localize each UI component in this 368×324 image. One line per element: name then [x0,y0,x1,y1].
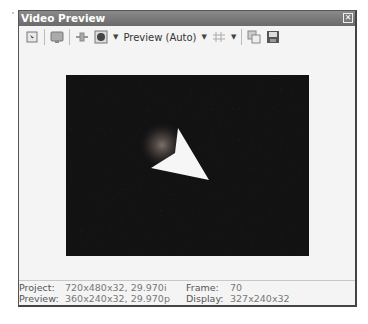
external-monitor-icon[interactable] [50,30,64,44]
preview-label: Preview: [19,293,65,304]
title-bar[interactable]: Video Preview ✕ [19,11,355,26]
preview-value: 360x240x32, 29.970p [65,293,170,304]
display-label: Display: [186,293,230,304]
save-snapshot-icon[interactable] [266,30,280,44]
project-label: Project: [19,282,65,293]
chevron-down-icon[interactable]: ▼ [231,33,236,41]
chevron-down-icon[interactable]: ▼ [113,33,118,41]
status-right: Frame:70 Display:327x240x32 [186,282,290,304]
copy-snapshot-icon[interactable] [247,30,261,44]
toolbar-separator [241,29,242,45]
video-frame[interactable] [66,75,309,256]
toolbar: ▼ Preview (Auto) ▼ ▼ [19,26,355,48]
display-value: 327x240x32 [230,293,290,304]
status-separator [19,280,355,281]
frame-label: Frame: [186,282,230,293]
close-button[interactable]: ✕ [343,13,353,23]
split-screen-icon[interactable] [75,30,89,44]
close-icon: ✕ [345,13,352,22]
video-preview-window: Video Preview ✕ ▼ Preview (Auto) ▼ ▼ [18,10,357,307]
toolbar-separator [69,29,70,45]
window-title: Video Preview [21,12,105,24]
chevron-down-icon[interactable]: ▼ [202,33,207,41]
properties-icon[interactable] [25,30,39,44]
toolbar-separator [44,29,45,45]
preview-quality-icon[interactable] [94,30,108,44]
project-value: 720x480x32, 29.970i [65,282,167,293]
frame-value: 70 [230,282,242,293]
preview-quality-dropdown[interactable]: Preview (Auto) [123,32,196,43]
status-left: Project:720x480x32, 29.970i Preview:360x… [19,282,170,304]
grid-icon[interactable] [212,30,226,44]
stray-mark [12,12,14,14]
